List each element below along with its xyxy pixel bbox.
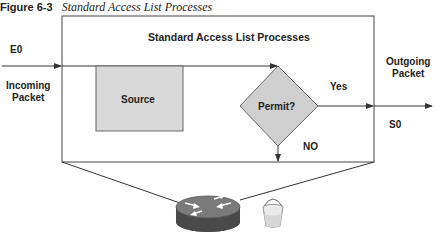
funnel-line-right — [240, 162, 374, 200]
box-title: Standard Access List Processes — [148, 31, 310, 43]
incoming-label-line1: Incoming — [6, 80, 50, 92]
funnel-line-left — [62, 162, 180, 203]
incoming-packet-label: Incoming Packet — [6, 80, 50, 104]
source-label: Source — [121, 94, 155, 106]
input-interface-label: E0 — [10, 44, 22, 56]
outgoing-label-line2: Packet — [386, 68, 430, 80]
outgoing-label-line1: Outgoing — [386, 56, 430, 68]
output-interface-label: S0 — [389, 119, 401, 131]
router-icon — [176, 194, 240, 232]
yes-label: Yes — [330, 81, 347, 93]
permit-label: Permit? — [258, 101, 295, 113]
incoming-label-line2: Packet — [6, 92, 50, 104]
bit-bucket-icon — [263, 199, 283, 228]
outgoing-packet-label: Outgoing Packet — [386, 56, 430, 80]
no-label: NO — [303, 141, 318, 153]
